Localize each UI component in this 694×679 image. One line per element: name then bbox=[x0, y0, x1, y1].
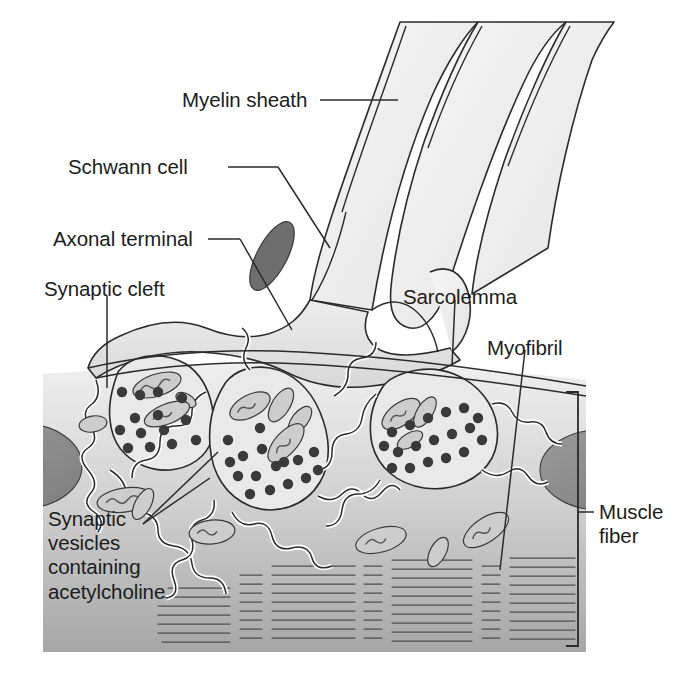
label-synaptic-vesicles: Synaptic vesicles containing acetylcholi… bbox=[48, 507, 165, 604]
label-synaptic-cleft: Synaptic cleft bbox=[44, 277, 165, 301]
label-myelin-sheath: Myelin sheath bbox=[182, 88, 307, 112]
label-myofibril: Myofibril bbox=[487, 336, 562, 360]
label-axonal-terminal: Axonal terminal bbox=[53, 227, 193, 251]
label-muscle-fiber: Muscle fiber bbox=[599, 500, 663, 548]
diagram-canvas: Myelin sheath Schwann cell Axonal termin… bbox=[0, 0, 694, 679]
label-schwann-cell: Schwann cell bbox=[68, 155, 188, 179]
label-sarcolemma: Sarcolemma bbox=[403, 285, 517, 309]
